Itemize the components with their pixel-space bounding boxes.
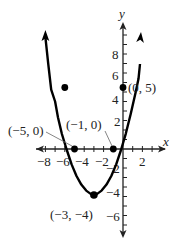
y-tick-label: 4 (112, 92, 119, 107)
point-label-m5-0: (−5, 0) (8, 123, 44, 138)
vertex-label: (−3, −4) (50, 207, 93, 222)
y-tick-label: −6 (106, 209, 120, 224)
x-tick-label: −8 (37, 154, 51, 169)
point-label-m1-0: (−1, 0) (66, 117, 102, 132)
y-tick-label: 8 (112, 47, 119, 62)
point-m1-0 (110, 146, 117, 153)
leader-line (46, 132, 72, 146)
parabola-graph: x −8 −6 −4 −2 2 (0, 0, 172, 241)
x-axis-label: x (162, 134, 169, 149)
curve-right-arrow-icon (136, 32, 144, 43)
point-0-5 (120, 84, 127, 91)
x-axis: x −8 −6 −4 −2 2 (36, 134, 169, 169)
y-axis-label: y (117, 6, 125, 21)
y-axis: y 8 6 4 2 −2 −4 −6 (106, 6, 127, 238)
y-tick-label: 6 (112, 68, 119, 83)
x-tick-label: 2 (139, 154, 146, 169)
point-m6-5 (61, 84, 68, 91)
x-tick-label: −4 (75, 154, 89, 169)
leader-line (105, 131, 112, 146)
vertex-point (90, 191, 98, 199)
point-label-0-5: (0, 5) (128, 80, 156, 95)
y-tick-label: −4 (106, 185, 120, 200)
y-tick-label: 2 (114, 114, 121, 129)
point-m5-0 (71, 146, 78, 153)
